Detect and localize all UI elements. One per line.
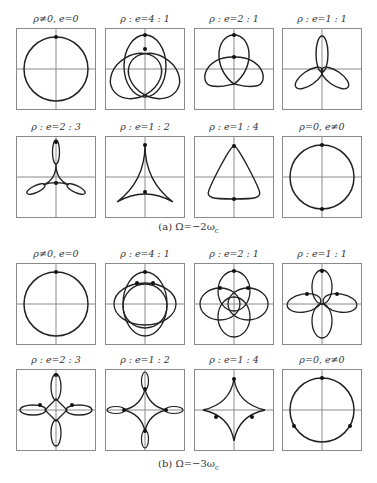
panel-title: ρ : e=1 : 1 bbox=[282, 248, 362, 259]
panel-title: ρ : e=1 : 1 bbox=[282, 13, 362, 24]
plot-trefoil-knot bbox=[194, 28, 274, 110]
panel-title: ρ : e=2 : 1 bbox=[194, 13, 274, 24]
plot-four-petal bbox=[282, 263, 362, 345]
caption-b: (b) Ω=−3ωc bbox=[0, 458, 377, 472]
plot-deltoid bbox=[105, 136, 185, 218]
plot-trefoil-loops bbox=[105, 28, 185, 110]
plot-four-loops-cusped bbox=[16, 369, 96, 451]
caption-subscript: c bbox=[215, 227, 219, 235]
panel-title: ρ : e=1 : 2 bbox=[105, 121, 185, 132]
caption-subscript: c bbox=[215, 464, 219, 472]
panel-title: ρ : e=1 : 2 bbox=[105, 354, 185, 365]
panel-title: ρ : e=2 : 1 bbox=[194, 248, 274, 259]
plot-four-loop-overlap bbox=[105, 263, 185, 345]
panel-title: ρ : e=4 : 1 bbox=[105, 248, 185, 259]
plot-circle bbox=[282, 136, 362, 218]
caption-text: (a) Ω=−2ω bbox=[158, 221, 215, 232]
caption-text: (b) Ω=−3ω bbox=[158, 458, 215, 469]
plot-astroid-rounded bbox=[194, 369, 274, 451]
plot-astroid-with-loops bbox=[105, 369, 185, 451]
panel-title: ρ : e=1 : 4 bbox=[194, 121, 274, 132]
panel-title: ρ=0, e≠0 bbox=[282, 121, 362, 132]
panel-title: ρ : e=2 : 3 bbox=[16, 121, 96, 132]
panel-title: ρ≠0, e=0 bbox=[16, 13, 96, 24]
caption-a: (a) Ω=−2ωc bbox=[0, 221, 377, 235]
plot-circle bbox=[16, 28, 96, 110]
panel-title: ρ : e=1 : 4 bbox=[194, 354, 274, 365]
panel-title: ρ : e=2 : 3 bbox=[16, 354, 96, 365]
panel-title: ρ≠0, e=0 bbox=[16, 248, 96, 259]
panel-title: ρ : e=4 : 1 bbox=[105, 13, 185, 24]
plot-four-lobe-knot bbox=[194, 263, 274, 345]
plot-three-loops-cusped bbox=[16, 136, 96, 218]
plot-rounded-triangle bbox=[194, 136, 274, 218]
plot-three-petal bbox=[282, 28, 362, 110]
panel-title: ρ=0, e≠0 bbox=[282, 354, 362, 365]
plot-circle bbox=[282, 369, 362, 451]
plot-circle bbox=[16, 263, 96, 345]
